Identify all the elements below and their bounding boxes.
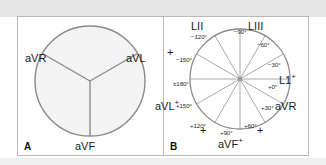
angle-minus-120: −120° bbox=[191, 34, 207, 40]
top-background-band bbox=[0, 0, 326, 17]
panel-a-letter: A bbox=[24, 141, 31, 152]
lead-avf: aVF+ bbox=[218, 139, 243, 150]
lead-liii: LIII bbox=[248, 21, 263, 32]
angle-minus-60: −60° bbox=[257, 42, 270, 48]
panel-a-label-avf: aVF bbox=[75, 141, 95, 152]
plus-mark-upper-left: + bbox=[167, 47, 173, 58]
lead-avf-polarity: + bbox=[238, 136, 243, 145]
angle-plus-0: +0° bbox=[268, 84, 277, 90]
lead-l1-text: L1 bbox=[279, 74, 291, 86]
angle-plus-90: +90° bbox=[220, 130, 233, 136]
angle-plus-60: +60° bbox=[244, 123, 257, 129]
panel-b-center-hub bbox=[238, 77, 243, 82]
plus-mark-lower-right: + bbox=[257, 125, 263, 136]
lead-l1: L1+ bbox=[279, 75, 296, 86]
angle-minus-90: −90° bbox=[234, 29, 247, 35]
panel-a: aVR aVL aVF A bbox=[17, 16, 164, 156]
panel-a-circle-group bbox=[35, 26, 145, 136]
panel-a-label-avl: aVL bbox=[126, 53, 146, 64]
plus-mark-lower-left: + bbox=[200, 125, 206, 136]
lead-avl-text: aVL bbox=[155, 100, 175, 112]
panel-b: −120° −90° −60° −30° +0° +30° +60° +90° … bbox=[163, 16, 309, 156]
angle-plus-30: +30° bbox=[261, 105, 274, 111]
lead-lii: LII bbox=[191, 21, 203, 32]
panel-b-letter: B bbox=[170, 141, 177, 152]
panel-b-circle-group bbox=[190, 29, 290, 129]
panel-a-diagram bbox=[18, 17, 163, 155]
bottom-background-band bbox=[0, 158, 326, 165]
lead-avf-text: aVF bbox=[218, 138, 238, 150]
lead-lii-text: LII bbox=[191, 20, 203, 32]
lead-liii-text: LIII bbox=[248, 20, 263, 32]
lead-avl-polarity: + bbox=[175, 98, 180, 107]
angle-minus-30: −30° bbox=[268, 62, 281, 68]
panel-a-label-avr: aVR bbox=[25, 53, 46, 64]
figure-root: aVR aVL aVF A −120° −90° bbox=[0, 0, 326, 165]
lead-avr: aVR bbox=[275, 101, 296, 112]
lead-l1-polarity: + bbox=[291, 72, 296, 81]
lead-avl: aVL+ bbox=[155, 101, 179, 112]
angle-pm-180: ±180° bbox=[173, 81, 189, 87]
angle-minus-150: −150° bbox=[176, 57, 192, 63]
lead-avr-text: aVR bbox=[275, 100, 296, 112]
